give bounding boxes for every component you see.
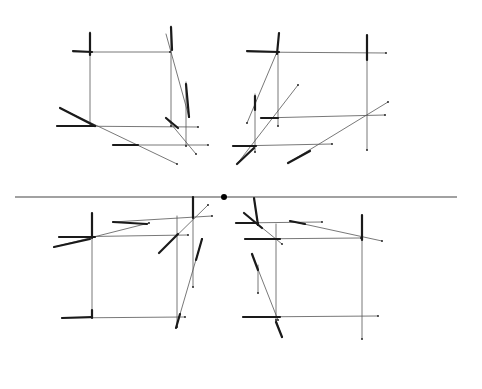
pen-dot [187,234,189,236]
emphasis-stroke [247,51,279,52]
emphasis-stroke [62,317,92,318]
pen-dot [91,316,93,318]
pen-dot [170,125,172,127]
pen-dot [381,240,383,242]
pen-dot [195,153,197,155]
pen-dot [254,151,256,153]
pen-dot [257,224,259,226]
pen-dot [201,238,203,240]
perspective-sketch [0,0,482,389]
pen-dot [361,338,363,340]
pen-dot [169,51,171,53]
pen-dot [246,122,248,124]
pen-dot [275,319,277,321]
pen-dot [360,237,362,239]
pen-dot [281,243,283,245]
pen-dot [281,336,283,338]
paper-background [0,0,482,389]
pen-dot [385,52,387,54]
sketch-svg [0,0,482,389]
pen-dot [176,326,178,328]
pen-dot [211,215,213,217]
pen-dot [176,163,178,165]
pen-dot [297,84,299,86]
pen-dot [387,101,389,103]
pen-dot [321,221,323,223]
pen-dot [207,204,209,206]
pen-dot [185,145,187,147]
pen-dot [384,114,386,116]
pen-dot [89,125,91,127]
pen-dot [366,149,368,151]
pen-dot [257,292,259,294]
pen-dot [192,286,194,288]
pen-dot [197,126,199,128]
pen-dot [207,144,209,146]
pen-dot [277,125,279,127]
pen-dot [277,319,279,321]
pen-dot [377,315,379,317]
vanishing-point [221,194,227,200]
pen-dot [188,116,190,118]
pen-dot [331,143,333,145]
pen-dot [184,316,186,318]
pen-dot [148,222,150,224]
emphasis-stroke [171,27,172,50]
